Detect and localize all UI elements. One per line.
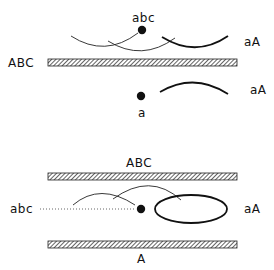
hatched-bar-a xyxy=(48,241,237,248)
label-abc-left: abc xyxy=(10,203,33,215)
top-panel xyxy=(48,26,237,100)
label-aA-upper: aA xyxy=(244,36,261,48)
thick-arc-lower xyxy=(160,82,228,94)
bottom-panel xyxy=(40,173,237,248)
thick-arc-upper xyxy=(162,36,228,47)
label-aA-lower: aA xyxy=(250,84,267,96)
label-aA-right: aA xyxy=(244,203,261,215)
thin-arc-left xyxy=(71,33,138,46)
label-ABC-top-bar: ABC xyxy=(8,57,34,69)
diagram-canvas xyxy=(0,0,274,270)
hatched-bar-abc xyxy=(48,59,237,66)
center-dot xyxy=(137,205,145,213)
thin-arc-a xyxy=(73,194,135,206)
thin-arc-middle xyxy=(108,38,175,51)
upper-dot xyxy=(138,26,146,34)
hatched-bar-abc-bottom xyxy=(48,173,237,180)
label-abc-top: abc xyxy=(132,12,155,24)
label-a: a xyxy=(138,107,146,119)
label-ABC-bottom-bar: ABC xyxy=(126,157,152,169)
thick-loop xyxy=(155,195,227,223)
lower-dot xyxy=(137,92,145,100)
label-A: A xyxy=(137,253,146,265)
